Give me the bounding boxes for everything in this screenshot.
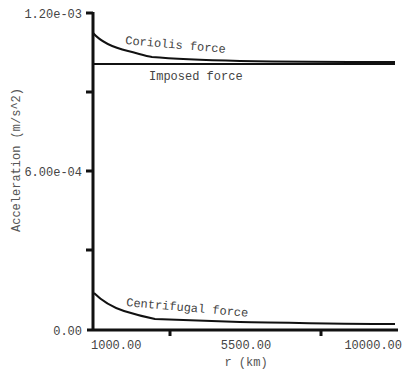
y-tick-label-mid: 6.00e-04	[24, 166, 82, 180]
y-tick-label-top: 1.20e-03	[24, 8, 82, 22]
x-tick-label-mid: 5500.00	[221, 339, 271, 353]
x-tick-label-right: 10000.00	[344, 339, 402, 353]
chart-canvas: 1.20e-03 6.00e-04 0.00 1000.00 5500.00 1…	[0, 0, 406, 378]
y-tick-label-bottom: 0.00	[53, 325, 82, 339]
x-tick-label-left: 1000.00	[91, 339, 141, 353]
chart: 1.20e-03 6.00e-04 0.00 1000.00 5500.00 1…	[0, 0, 406, 378]
x-axis-title: r (km)	[224, 356, 267, 370]
y-axis-title: Acceleration (m/s^2)	[10, 88, 24, 232]
imposed-force-label: Imposed force	[149, 70, 243, 84]
